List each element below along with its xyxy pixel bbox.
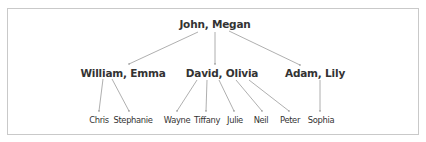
edge-john-to-adam <box>229 31 300 65</box>
node-david-olivia: David, Olivia <box>186 67 258 79</box>
edge-john-to-william <box>129 32 198 64</box>
node-chris: Chris <box>89 114 108 125</box>
edge-david-to-wayne <box>177 80 197 111</box>
edge-william-to-stephanie <box>112 79 129 111</box>
edge-william-to-chris <box>99 79 103 111</box>
node-stephanie: Stephanie <box>113 114 152 125</box>
edge-david-to-tiffany <box>206 80 207 111</box>
node-wayne: Wayne <box>164 114 190 125</box>
node-william-emma: William, Emma <box>80 67 165 79</box>
edge-david-to-neil <box>236 80 262 111</box>
node-neil: Neil <box>254 114 269 125</box>
node-adam-lily: Adam, Lily <box>285 67 345 79</box>
edge-david-to-peter <box>249 80 289 111</box>
edge-david-to-julie <box>219 80 234 111</box>
node-julie: Julie <box>227 114 243 125</box>
node-sophia: Sophia <box>308 114 334 125</box>
node-tiffany: Tiffany <box>194 114 220 125</box>
node-john-megan: John, Megan <box>179 18 250 30</box>
node-peter: Peter <box>280 114 300 125</box>
